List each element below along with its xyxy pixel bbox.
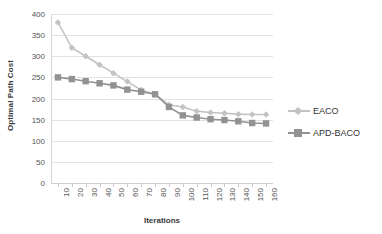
x-axis-tick-label: 50 [117, 188, 126, 197]
x-axis-tick-mark [266, 183, 267, 187]
x-axis-tick-label: 130 [228, 188, 237, 201]
series-line-apd-baco [58, 77, 266, 123]
y-axis-tick-labels: 050100150200250300350400 [18, 0, 48, 190]
legend-item-eaco[interactable]: EACO [288, 100, 380, 122]
data-point-marker [193, 114, 199, 120]
chart-container: Optimal Path Cost 0501001502002503003504… [0, 0, 382, 234]
plot-area [51, 14, 273, 183]
x-axis-tick-label: 110 [201, 188, 210, 201]
x-axis-tick-label: 150 [256, 188, 265, 201]
x-axis-tick-label: 60 [131, 188, 140, 197]
x-axis-tick-mark [183, 183, 184, 187]
data-point-marker [207, 116, 213, 122]
x-axis-tick-label: 20 [76, 188, 85, 197]
x-axis-tick-mark [100, 183, 101, 187]
data-point-marker [249, 111, 256, 118]
x-axis-tick-mark [169, 183, 170, 187]
data-point-marker [82, 78, 88, 84]
data-point-marker [138, 89, 144, 95]
x-axis-tick-mark [127, 183, 128, 187]
y-axis-title-label: Optimal Path Cost [7, 59, 16, 130]
x-axis-tick-label: 30 [90, 188, 99, 197]
x-axis-title: Iterations [51, 216, 273, 225]
x-axis-tick-mark [155, 183, 156, 187]
data-point-marker [69, 76, 75, 82]
data-point-marker [180, 112, 186, 118]
data-point-marker [249, 120, 255, 126]
legend-marker-apd-baco-icon [288, 127, 310, 139]
x-axis-tick-label: 40 [104, 188, 113, 197]
y-axis-tick-label: 400 [32, 10, 45, 19]
y-axis-tick-label: 100 [32, 136, 45, 145]
x-axis-tick-label: 90 [173, 188, 182, 197]
x-axis-tick-label: 160 [270, 188, 279, 201]
y-axis-tick-label: 300 [32, 52, 45, 61]
x-axis-tick-mark [58, 183, 59, 187]
y-axis-tick-label: 200 [32, 94, 45, 103]
legend-marker-eaco-icon [288, 105, 310, 117]
data-point-marker [55, 74, 61, 80]
data-point-marker [166, 104, 172, 110]
y-axis-tick-label: 250 [32, 73, 45, 82]
diamond-marker-icon [294, 107, 302, 115]
x-axis-tick-mark [141, 183, 142, 187]
x-axis-tick-labels: 102030405060708090100110120130140150160 [51, 188, 273, 214]
data-point-marker [124, 86, 130, 92]
y-axis-tick-label: 350 [32, 31, 45, 40]
y-axis-tick-label: 50 [36, 157, 45, 166]
legend-label-apd-baco: APD-BACO [313, 128, 360, 138]
legend-label-eaco: EACO [313, 106, 339, 116]
x-axis-tick-mark [224, 183, 225, 187]
data-point-marker [235, 111, 242, 118]
data-point-marker [263, 120, 269, 126]
x-axis-tick-mark [86, 183, 87, 187]
y-axis-tick-label: 150 [32, 115, 45, 124]
x-axis-tick-label: 100 [187, 188, 196, 201]
square-marker-icon [294, 129, 302, 137]
data-point-marker [152, 91, 158, 97]
legend-item-apd-baco[interactable]: APD-BACO [288, 122, 380, 144]
data-point-marker [193, 108, 200, 115]
y-axis-tick-label: 0 [41, 179, 45, 188]
data-point-marker [221, 110, 228, 117]
x-axis-tick-mark [211, 183, 212, 187]
data-point-marker [235, 118, 241, 124]
data-point-marker [263, 111, 270, 118]
x-axis-tick-mark [197, 183, 198, 187]
data-point-marker [110, 82, 116, 88]
data-point-marker [96, 80, 102, 86]
x-axis-tick-label: 10 [62, 188, 71, 197]
x-axis-tick-label: 70 [145, 188, 154, 197]
x-axis-tick-mark [252, 183, 253, 187]
chart-legend: EACO APD-BACO [288, 100, 380, 144]
data-point-marker [180, 104, 187, 111]
data-point-marker [55, 19, 62, 26]
series-layer [51, 14, 273, 183]
x-axis-tick-label: 80 [159, 188, 168, 197]
x-axis-tick-mark [238, 183, 239, 187]
x-axis-tick-mark [113, 183, 114, 187]
x-axis-tick-label: 140 [242, 188, 251, 201]
x-axis-tick-mark [72, 183, 73, 187]
data-point-marker [207, 109, 214, 116]
x-axis-tick-label: 120 [215, 188, 224, 201]
data-point-marker [221, 117, 227, 123]
